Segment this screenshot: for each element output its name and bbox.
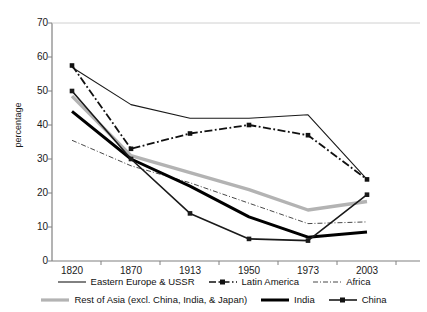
legend-label: China [362,294,387,305]
legend-item-latin-america[interactable]: Latin America [208,276,300,287]
series-markers-china [70,89,370,243]
legend-label: Africa [346,276,370,287]
line-chart: percentage 70 60 50 40 30 20 10 0 [0,0,427,312]
data-point [365,192,370,197]
legend-item-china[interactable]: China [328,294,387,305]
legend-label: Rest of Asia (excl. China, India, & Japa… [74,294,247,305]
series-markers-latin-america [70,63,370,182]
legend-label: India [294,294,315,305]
data-point [129,157,134,162]
legend-label: Latin America [242,276,300,287]
axis-lines [52,23,420,261]
series-line-china [72,91,367,241]
data-point [306,238,311,243]
data-point [365,177,370,182]
legend-row-1: Eastern Europe & USSR Latin America Afri… [0,272,427,290]
data-point [70,63,75,68]
data-point [247,237,252,242]
chart-legend: Eastern Europe & USSR Latin America Afri… [0,272,427,308]
solid-thin-line-icon [57,276,87,287]
legend-label: Eastern Europe & USSR [91,276,195,287]
series-line-eastern-europe-ussr [72,67,367,179]
data-series-layer [70,63,370,243]
data-point [129,147,134,152]
data-point [70,89,75,94]
legend-item-rest-of-asia[interactable]: Rest of Asia (excl. China, India, & Japa… [40,294,247,305]
solid-extrathick-line-icon [260,294,290,305]
dash-dot-thin-line-icon [312,276,342,287]
data-point [188,131,193,136]
data-point [247,123,252,128]
solid-thick-grey-line-icon [40,294,70,305]
data-point [188,211,193,216]
dash-dot-square-line-icon [208,276,238,287]
solid-medium-square-line-icon [328,294,358,305]
plot-area [0,0,427,270]
data-point [306,133,311,138]
legend-row-2: Rest of Asia (excl. China, India, & Japa… [0,290,427,308]
legend-item-eastern-europe-ussr[interactable]: Eastern Europe & USSR [57,276,195,287]
series-line-rest-of-asia-excl-china-india-japan [72,96,367,210]
series-line-latin-america [72,66,367,180]
legend-item-africa[interactable]: Africa [312,276,370,287]
legend-item-india[interactable]: India [260,294,315,305]
